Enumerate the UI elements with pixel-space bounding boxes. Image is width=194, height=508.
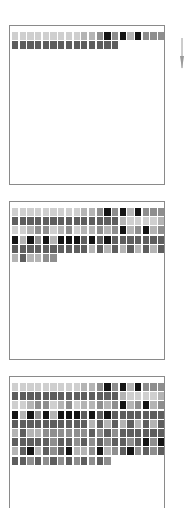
grid-cell: [104, 438, 110, 446]
grid-cell: [104, 392, 110, 400]
grid-cell: [12, 429, 18, 437]
grid-cell: [127, 208, 133, 216]
grid-cell: [74, 392, 80, 400]
grid-cell: [27, 383, 33, 391]
grid-cell: [158, 236, 164, 244]
grid-cell: [97, 457, 103, 465]
grid-cell: [97, 383, 103, 391]
grid-cell: [112, 208, 118, 216]
grid-cell: [66, 208, 72, 216]
grid-cell: [143, 236, 149, 244]
grid-cell: [50, 208, 56, 216]
grid-cell: [143, 392, 149, 400]
grid-cell: [135, 226, 141, 234]
grid-cell: [112, 392, 118, 400]
grid-cell: [50, 236, 56, 244]
grid-cell: [135, 401, 141, 409]
grid-cell: [127, 226, 133, 234]
grid-cell: [112, 236, 118, 244]
grid-cell: [35, 41, 41, 49]
grid-cell: [58, 447, 64, 455]
grid-cell: [97, 438, 103, 446]
grid-cell: [89, 447, 95, 455]
grid-cell: [81, 208, 87, 216]
grid-cell: [120, 226, 126, 234]
grid-cell: [35, 392, 41, 400]
grid-cell: [158, 411, 164, 419]
grid-cell: [143, 383, 149, 391]
grid-row: [12, 208, 166, 216]
grid-cell: [143, 245, 149, 253]
grid-cell: [12, 226, 18, 234]
grid-cell: [120, 383, 126, 391]
grid-cell: [112, 245, 118, 253]
grid-cell: [89, 401, 95, 409]
grid-cell: [20, 245, 26, 253]
grid-cell: [81, 226, 87, 234]
grid-cell: [66, 429, 72, 437]
grid-cell: [104, 208, 110, 216]
grid-cell: [50, 457, 56, 465]
grid-cell: [104, 236, 110, 244]
panel-2: [9, 201, 165, 360]
grid-cell: [135, 392, 141, 400]
grid-cell: [127, 411, 133, 419]
grid-cell: [127, 32, 133, 40]
grid-row: [12, 392, 166, 400]
grid-cell: [89, 226, 95, 234]
cell-grid: [12, 383, 166, 466]
grid-cell: [135, 447, 141, 455]
grid-cell: [12, 383, 18, 391]
grid-cell: [35, 447, 41, 455]
grid-cell: [158, 438, 164, 446]
grid-cell: [35, 383, 41, 391]
grid-cell: [120, 392, 126, 400]
grid-cell: [20, 226, 26, 234]
grid-cell: [66, 383, 72, 391]
grid-cell: [12, 420, 18, 428]
grid-cell: [112, 383, 118, 391]
grid-cell: [135, 438, 141, 446]
grid-row: [12, 236, 166, 244]
grid-cell: [143, 208, 149, 216]
grid-cell: [104, 411, 110, 419]
grid-row: [12, 447, 166, 455]
grid-cell: [50, 438, 56, 446]
grid-cell: [143, 401, 149, 409]
grid-cell: [81, 245, 87, 253]
grid-row: [12, 383, 166, 391]
grid-cell: [74, 457, 80, 465]
panel-3: [9, 376, 165, 508]
grid-cell: [27, 457, 33, 465]
grid-cell: [143, 226, 149, 234]
grid-cell: [74, 420, 80, 428]
grid-cell: [43, 401, 49, 409]
grid-cell: [89, 457, 95, 465]
grid-cell: [58, 236, 64, 244]
grid-cell: [135, 208, 141, 216]
grid-cell: [120, 208, 126, 216]
grid-cell: [81, 383, 87, 391]
grid-cell: [158, 32, 164, 40]
grid-cell: [127, 217, 133, 225]
grid-cell: [81, 411, 87, 419]
grid-cell: [35, 429, 41, 437]
grid-cell: [81, 447, 87, 455]
grid-cell: [20, 32, 26, 40]
grid-row: [12, 457, 166, 465]
grid-cell: [158, 245, 164, 253]
grid-cell: [143, 32, 149, 40]
grid-cell: [74, 41, 80, 49]
grid-cell: [120, 245, 126, 253]
grid-cell: [112, 438, 118, 446]
grid-cell: [104, 383, 110, 391]
grid-cell: [27, 429, 33, 437]
grid-cell: [112, 447, 118, 455]
grid-cell: [12, 236, 18, 244]
grid-cell: [135, 245, 141, 253]
grid-cell: [50, 420, 56, 428]
grid-cell: [120, 411, 126, 419]
grid-cell: [20, 438, 26, 446]
grid-row: [12, 438, 166, 446]
grid-row: [12, 41, 166, 49]
